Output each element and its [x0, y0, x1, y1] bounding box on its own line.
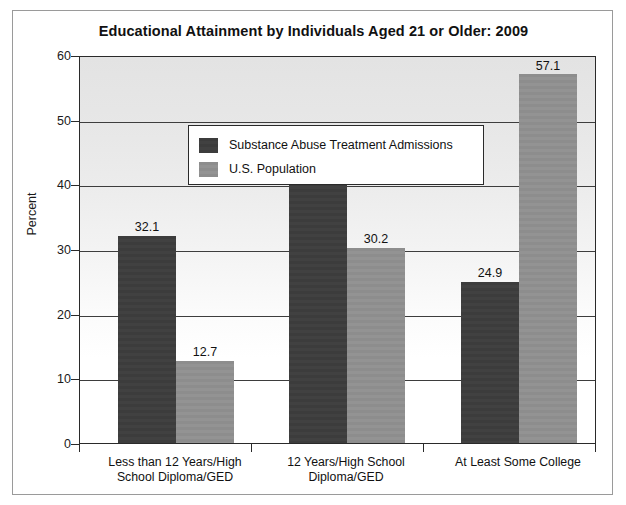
chart-title: Educational Attainment by Individuals Ag… [13, 23, 614, 39]
bar-cat0-series0[interactable] [118, 236, 176, 444]
bar-value-cat0-series0: 32.1 [135, 220, 159, 234]
x-tick-mark-1 [251, 444, 252, 452]
y-tick-mark-30 [71, 250, 79, 251]
legend-item-us-population[interactable]: U.S. Population [199, 159, 316, 179]
plot-area: 32.1 12.7 43.0 30.2 24.9 57.1 Substance … [79, 56, 596, 444]
y-tick-label-30: 30 [41, 243, 71, 257]
x-category-label-2: At Least Some College [433, 455, 603, 470]
y-tick-mark-0 [71, 444, 79, 445]
y-tick-label-0: 0 [41, 437, 71, 451]
x-category-label-1-line-0: 12 Years/High School [261, 455, 431, 470]
x-tick-mark-start [79, 444, 80, 452]
chart-figure-frame: Educational Attainment by Individuals Ag… [12, 10, 613, 495]
y-tick-label-10: 10 [41, 372, 71, 386]
gridline-50 [80, 122, 595, 123]
y-tick-label-40: 40 [41, 178, 71, 192]
legend-swatch-light-icon [199, 162, 218, 177]
y-tick-label-50: 50 [41, 114, 71, 128]
x-tick-mark-2 [423, 444, 424, 452]
legend-swatch-dark-icon [199, 138, 218, 153]
y-tick-label-60: 60 [41, 49, 71, 63]
x-category-label-0: Less than 12 Years/High School Diploma/G… [90, 455, 260, 485]
y-tick-mark-50 [71, 121, 79, 122]
bar-cat0-series1[interactable] [176, 361, 234, 443]
bar-cat1-series0[interactable] [289, 165, 347, 443]
x-category-label-1: 12 Years/High School Diploma/GED [261, 455, 431, 485]
legend-label-series0: Substance Abuse Treatment Admissions [229, 138, 453, 152]
y-tick-mark-10 [71, 379, 79, 380]
bar-value-cat1-series1: 30.2 [364, 232, 388, 246]
y-tick-mark-40 [71, 185, 79, 186]
x-category-label-0-line-1: School Diploma/GED [90, 470, 260, 485]
bar-cat2-series1[interactable] [519, 74, 577, 443]
y-tick-label-20: 20 [41, 308, 71, 322]
bar-value-cat2-series1: 57.1 [536, 59, 560, 73]
y-tick-mark-20 [71, 315, 79, 316]
x-tick-mark-end [595, 444, 596, 452]
x-category-label-1-line-1: Diploma/GED [261, 470, 431, 485]
x-category-label-2-line-0: At Least Some College [433, 455, 603, 470]
bar-cat1-series1[interactable] [347, 248, 405, 443]
y-axis-tick-labels: 60 50 40 30 20 10 0 [35, 56, 71, 444]
bar-value-cat2-series0: 24.9 [478, 266, 502, 280]
bar-value-cat0-series1: 12.7 [193, 345, 217, 359]
x-category-label-0-line-0: Less than 12 Years/High [90, 455, 260, 470]
legend-label-series1: U.S. Population [229, 162, 316, 176]
x-axis: Less than 12 Years/High School Diploma/G… [79, 444, 596, 494]
bar-cat2-series0[interactable] [461, 282, 519, 443]
y-tick-mark-60 [71, 56, 79, 57]
legend-item-substance-abuse-treatment-admissions[interactable]: Substance Abuse Treatment Admissions [199, 135, 453, 155]
chart-legend: Substance Abuse Treatment Admissions U.S… [188, 125, 484, 185]
